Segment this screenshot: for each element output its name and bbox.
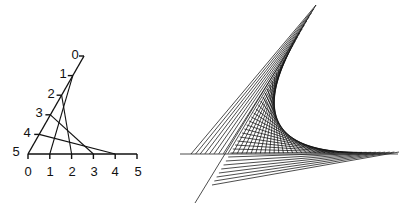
string-line: [219, 29, 302, 154]
h-axis-label-2: 2: [68, 164, 75, 179]
envelope-diagrams: 0 1 2 3 4 5 0 1 2 3 4 5: [0, 0, 413, 217]
right-diagram: [180, 5, 399, 203]
string-line: [217, 152, 390, 177]
h-axis-label-4: 4: [111, 164, 118, 179]
h-axis-label-3: 3: [90, 164, 97, 179]
s-axis-label-0: 0: [71, 47, 78, 62]
left-diagram: 0 1 2 3 4 5 0 1 2 3 4 5: [12, 47, 141, 179]
connection-line: [50, 115, 93, 154]
h-axis-label-0: 0: [24, 164, 31, 179]
s-axis-label-1: 1: [59, 66, 66, 81]
h-axis-label-5: 5: [134, 164, 141, 179]
s-axis-label-3: 3: [35, 105, 42, 120]
s-axis-label-4: 4: [23, 125, 30, 140]
string-line: [205, 17, 309, 154]
s-axis-label-2: 2: [47, 86, 54, 101]
string-line: [219, 152, 385, 173]
connection-line: [62, 95, 72, 154]
string-line: [196, 9, 314, 154]
string-line: [214, 25, 304, 154]
string-line: [200, 13, 311, 154]
s-axis-label-5: 5: [12, 144, 19, 159]
h-axis-label-1: 1: [46, 164, 53, 179]
